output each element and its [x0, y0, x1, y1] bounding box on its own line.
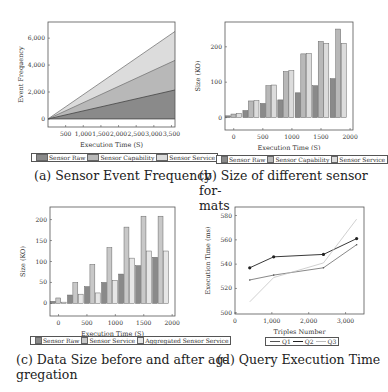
bar [61, 302, 66, 303]
x-tick-label: 500 [81, 319, 93, 326]
legend-line-q2 [293, 341, 303, 342]
legend-label: Sensor Raw [43, 337, 79, 344]
x-tick-label: 0 [57, 319, 61, 326]
legend-label: Q2 [305, 338, 314, 345]
marker [273, 274, 275, 276]
legend-d: Q1 Q2 Q3 [265, 337, 339, 346]
legend-swatch-service [156, 154, 168, 161]
bar [141, 216, 146, 303]
bar [324, 43, 329, 117]
bar [153, 257, 158, 303]
y-tick-label: 100 [36, 258, 48, 265]
y-tick-label: 0 [218, 114, 222, 121]
legend-b: Sensor Raw Sensor Capability Sensor Serv… [216, 155, 388, 164]
bar [301, 54, 306, 118]
legend-swatch-aggregated [137, 337, 144, 344]
x-tick-label: 1000 [108, 319, 123, 326]
bar [243, 111, 248, 118]
marker [355, 237, 358, 240]
bar [278, 100, 283, 118]
x-tick-label: 2000 [342, 133, 357, 140]
legend-a: Sensor Raw Sensor Capability Sensor Serv… [31, 153, 218, 162]
x-tick-label: 3,500 [163, 130, 180, 137]
y-tick-label: 200 [211, 43, 223, 50]
chart-b-plot: 05001000150020000100200Execution Time (S… [192, 0, 384, 150]
caption-d: (d) Query Execution Time [217, 352, 380, 367]
caption-a: (a) Sensor Event Frequency [34, 168, 211, 183]
x-tick-label: 1000 [284, 133, 299, 140]
legend-label: Q3 [328, 338, 337, 345]
marker [272, 255, 275, 258]
bar [102, 282, 107, 303]
marker [356, 244, 358, 246]
x-tick-label: 2000 [165, 319, 180, 326]
bar [50, 301, 55, 303]
y-tick-label: 560 [221, 236, 233, 243]
y-tick-label: 50 [39, 278, 47, 285]
x-axis-label: Triples Number [273, 328, 326, 336]
bar [124, 227, 129, 303]
y-axis-label: Execution Time (ms) [204, 226, 212, 294]
x-tick-label: 2,500 [128, 130, 145, 137]
chart-d-plot: 01,0002,0003,000500520540560580Triples N… [192, 196, 384, 336]
bar [95, 293, 100, 303]
marker [249, 279, 251, 281]
bar [67, 295, 72, 303]
legend-label: Sensor Capability [100, 154, 154, 161]
y-axis-label: Event Frequency [17, 46, 25, 103]
caption-b-line1: (b) Size of different sensor for- [199, 168, 384, 198]
y-tick-label: 580 [221, 212, 233, 219]
bar [271, 85, 276, 118]
caption-c-line2: gregation [16, 367, 228, 382]
chart-d: 01,0002,0003,000500520540560580Triples N… [192, 196, 384, 346]
x-tick-label: 1,000 [75, 130, 92, 137]
chart-a-plot: 5001,0001,5002,0002,5003,0003,50002,0004… [0, 0, 192, 150]
legend-label: Sensor Raw [229, 156, 265, 163]
legend-line-q1 [270, 341, 280, 342]
y-tick-label: 500 [221, 309, 233, 316]
legend-swatch-service [331, 156, 338, 163]
y-axis-label: Size (KO) [19, 246, 27, 277]
legend-swatch-capability [267, 156, 274, 163]
caption-c-line1: (c) Data Size before and after ag- [16, 352, 228, 367]
bar [107, 248, 112, 304]
x-tick-label: 0 [232, 133, 236, 140]
bar [306, 54, 311, 118]
y-tick-label: 0 [43, 299, 47, 306]
bar [136, 266, 141, 304]
legend-label: Sensor Service [339, 156, 385, 163]
bar [313, 86, 318, 118]
line-q2 [250, 239, 357, 268]
bar [158, 216, 163, 303]
bar [90, 264, 95, 303]
bar [146, 251, 151, 303]
x-tick-label: 1,000 [263, 317, 280, 324]
marker [323, 267, 325, 269]
legend-line-q3 [316, 341, 326, 342]
x-axis-label: Execution Time (S) [80, 141, 143, 149]
bar [85, 287, 90, 304]
bar [341, 43, 346, 117]
legend-label: Sensor Capability [275, 156, 329, 163]
y-tick-label: 200 [36, 216, 48, 223]
legend-swatch-raw [36, 154, 48, 161]
x-tick-label: 1500 [136, 319, 151, 326]
bar [163, 251, 168, 303]
x-tick-label: 500 [60, 130, 72, 137]
bar [266, 86, 271, 118]
x-tick-label: 500 [257, 133, 269, 140]
x-tick-label: 2,000 [110, 130, 127, 137]
chart-b: 05001000150020000100200Execution Time (S… [192, 0, 384, 160]
bar [119, 274, 124, 303]
legend-swatch-capability [87, 154, 99, 161]
marker [248, 266, 251, 269]
legend-swatch-raw [221, 156, 228, 163]
bar [112, 280, 117, 303]
bar [231, 114, 236, 118]
plot-frame [235, 207, 364, 314]
line-q1 [250, 245, 357, 280]
y-axis-label: Size (KO) [194, 60, 202, 91]
y-tick-label: 4,000 [28, 61, 45, 68]
legend-label: Q1 [282, 338, 291, 345]
y-tick-label: 540 [221, 260, 233, 267]
